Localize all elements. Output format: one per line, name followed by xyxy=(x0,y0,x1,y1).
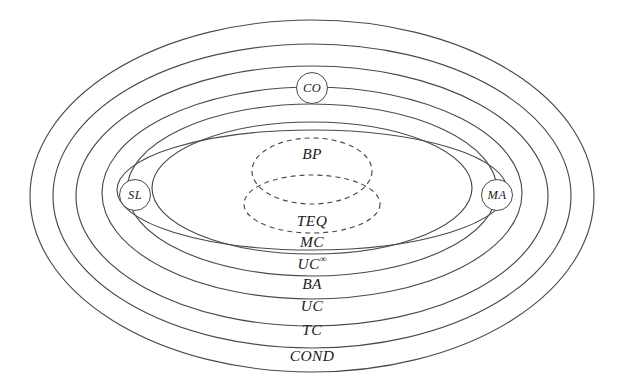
node-co: CO xyxy=(296,72,328,104)
ring-label-mc: MC xyxy=(300,233,324,251)
dashed-label-teq: TEQ xyxy=(297,212,327,230)
ring-label-ba: BA xyxy=(302,275,322,293)
node-label-co: CO xyxy=(303,81,321,96)
ring-label-cond: COND xyxy=(290,347,335,365)
node-label-ma: MA xyxy=(488,188,507,203)
node-sl: SL xyxy=(119,179,151,211)
ring-label-uc: UC xyxy=(301,297,323,315)
euler-diagram-figure: COND TC UC BA UC∞ MC BP TEQ CO SL MA xyxy=(0,0,625,390)
ring-label-tc: TC xyxy=(302,321,322,339)
superscript-infinity: ∞ xyxy=(320,253,327,264)
dashed-label-bp: BP xyxy=(302,145,322,163)
node-ma: MA xyxy=(481,179,513,211)
node-label-sl: SL xyxy=(128,188,142,203)
ring-label-ucinf: UC∞ xyxy=(297,253,326,272)
